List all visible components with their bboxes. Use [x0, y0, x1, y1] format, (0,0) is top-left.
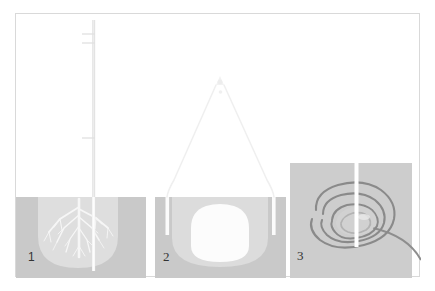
drill-string	[92, 197, 94, 271]
left-shaft	[166, 197, 170, 235]
panel-3-group	[290, 163, 421, 278]
coil-highlight	[358, 214, 370, 220]
illustration-canvas: 1 2 3	[0, 0, 435, 291]
figure-svg	[16, 14, 421, 278]
panel-2-group	[155, 76, 286, 278]
central-pipe-core	[356, 163, 358, 247]
a-frame-cables	[167, 85, 274, 197]
a-frame-cable-right	[224, 85, 274, 197]
panel-number-2: 2	[163, 250, 170, 263]
cavity-void	[191, 204, 249, 262]
right-shaft	[272, 197, 276, 235]
illustration-frame: 1 2 3	[15, 13, 420, 277]
a-frame-cable-left	[167, 85, 216, 197]
apex-fitting	[216, 76, 224, 94]
panel-1-group	[16, 20, 146, 278]
panel-number-3: 3	[297, 249, 304, 262]
panel-number-1: 1	[28, 251, 35, 263]
